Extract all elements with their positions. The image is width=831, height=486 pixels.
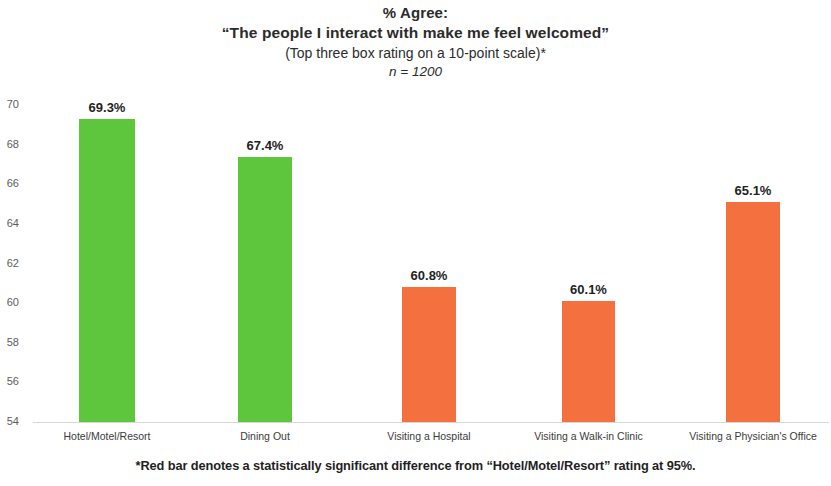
y-axis-tick-label: 60 [0,296,19,308]
bar [79,119,135,422]
bar [726,202,780,422]
bar-group: 60.8% [402,287,456,422]
category-label: Hotel/Motel/Resort [64,430,151,442]
bar-group: 65.1% [726,202,780,422]
bar-value-label: 69.3% [89,100,126,115]
bar-chart: % Agree: “The people I interact with mak… [0,0,831,486]
bar-group: 60.1% [562,301,615,422]
y-axis-tick-label: 68 [0,138,19,150]
bar-value-label: 67.4% [247,138,284,153]
category-label: Visiting a Physician's Office [689,430,817,442]
category-label: Visiting a Walk-in Clinic [534,430,643,442]
bar-value-label: 65.1% [735,183,772,198]
bar [562,301,615,422]
bar-value-label: 60.1% [570,282,607,297]
y-axis-tick-label: 70 [0,98,19,110]
y-axis-tick-label: 64 [0,217,19,229]
y-axis-tick-label: 62 [0,257,19,269]
y-axis-tick-label: 54 [0,415,19,427]
category-label: Visiting a Hospital [387,430,470,442]
bar [402,287,456,422]
y-axis-tick-label: 56 [0,375,19,387]
chart-footnote: *Red bar denotes a statistically signifi… [0,458,831,473]
bar [238,157,292,422]
plot-area: 706866646260585654 69.3%67.4%60.8%60.1%6… [0,0,831,486]
bar-group: 69.3% [79,119,135,422]
bar-value-label: 60.8% [411,268,448,283]
y-axis-tick-label: 58 [0,336,19,348]
bar-group: 67.4% [238,157,292,422]
y-axis-tick-label: 66 [0,177,19,189]
category-label: Dining Out [240,430,290,442]
x-axis-line [33,422,829,423]
